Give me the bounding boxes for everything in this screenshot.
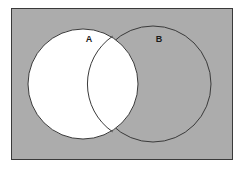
set-a-label: A (86, 34, 93, 44)
venn-diagram-figure: A B (0, 0, 244, 176)
set-a-circle (28, 29, 138, 139)
venn-diagram-canvas: A B (0, 0, 244, 176)
set-b-label: B (156, 34, 163, 44)
